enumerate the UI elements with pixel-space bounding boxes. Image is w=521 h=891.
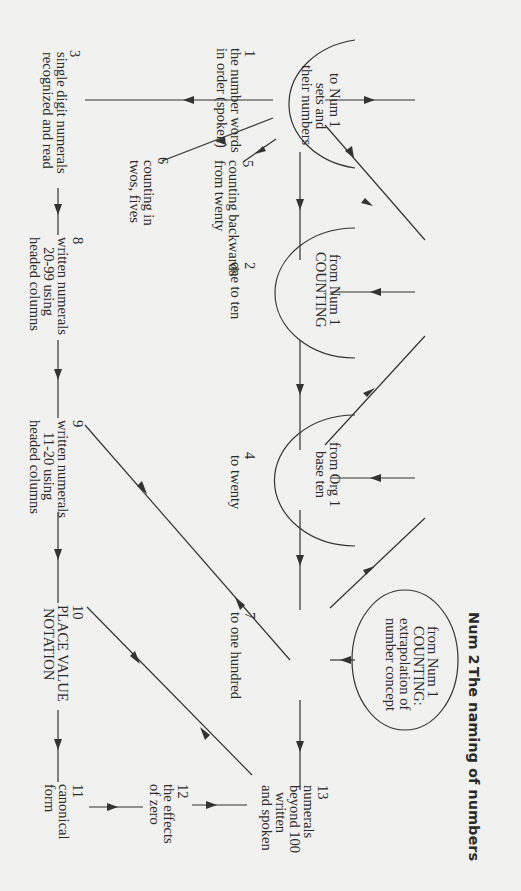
svg-text:to one hundred: to one hundred (228, 612, 244, 700)
svg-text:twos, fives: twos, fives (127, 160, 143, 223)
svg-text:number concept: number concept (383, 618, 399, 711)
node-8: 8 written numerals 20-99 using headed co… (27, 237, 86, 335)
node-11: 11 canonical form (42, 784, 86, 840)
svg-text:in order (spoken): in order (spoken) (213, 48, 230, 148)
diagram-canvas: Num 2 The naming of numbers to Num 1 set… (0, 0, 521, 891)
svg-text:NOTATION: NOTATION (41, 608, 57, 681)
node-10: 10 PLACE VALUE NOTATION (41, 605, 86, 702)
external-node-from-num1-counting-extrapolation: from Num 1 COUNTING: extrapolation of nu… (383, 618, 441, 711)
arrow-head-icon (54, 739, 62, 750)
figure-title: The naming of numbers (466, 667, 482, 861)
svg-text:headed columns: headed columns (27, 420, 43, 514)
arrow-head-icon (345, 146, 354, 158)
svg-text:9: 9 (70, 420, 86, 427)
svg-text:from twenty: from twenty (212, 160, 228, 232)
arrow-head-icon (235, 597, 245, 610)
arrow-head-icon (370, 474, 381, 482)
svg-text:headed columns: headed columns (27, 237, 43, 331)
svg-text:form: form (42, 784, 58, 813)
arrow-head-icon (296, 384, 304, 395)
svg-text:of zero: of zero (147, 784, 163, 825)
svg-text:their numbers: their numbers (299, 65, 315, 145)
arrow-head-icon (296, 741, 304, 752)
node-3: 3 single digit numerals recognized and r… (40, 50, 83, 174)
node-12: 12 the effects of zero (147, 784, 191, 844)
svg-text:recognized and read: recognized and read (40, 52, 56, 169)
node-9: 9 written numerals 11-20 using headed co… (27, 420, 86, 518)
node-4: 4 to twenty (228, 452, 258, 510)
node-6: 6 counting in twos, fives (127, 157, 171, 226)
arrow-head-icon (107, 803, 118, 811)
arrow-head-icon (54, 369, 62, 380)
arrow-head-icon (361, 198, 373, 206)
external-node-from-num1-counting: from Num 1 COUNTING (313, 252, 343, 328)
node-7: 7 to one hundred (228, 612, 258, 700)
arrow-head-icon (296, 555, 304, 566)
arrow-head-icon (54, 204, 62, 215)
arrow-head-icon (206, 801, 217, 809)
arrow-head-icon (363, 566, 375, 575)
node-5: 5 counting backwards from twenty (212, 160, 256, 277)
svg-text:base ten: base ten (313, 451, 329, 499)
arrow-head-icon (296, 199, 304, 210)
arrow-head-icon (364, 96, 375, 104)
arrow-head-icon (370, 288, 381, 296)
arrow-head-icon (200, 727, 210, 740)
arrow-head-icon (54, 549, 62, 560)
arrow-head-icon (183, 96, 194, 104)
node-13: 13 numerals beyond 100 written and spoke… (259, 785, 331, 853)
svg-text:COUNTING: COUNTING (313, 252, 329, 328)
svg-text:8: 8 (70, 237, 86, 244)
svg-text:10: 10 (70, 605, 86, 620)
figure-number: Num 2 (466, 612, 482, 665)
arrow-head-icon (137, 481, 147, 494)
svg-text:to twenty: to twenty (228, 455, 244, 510)
external-node-from-org1-base-ten: from Org 1 base ten (313, 442, 343, 507)
external-node-to-num1-sets: to Num 1 sets and their numbers (299, 65, 343, 145)
arrow-head-icon (340, 656, 351, 664)
svg-text:and spoken: and spoken (259, 785, 275, 851)
